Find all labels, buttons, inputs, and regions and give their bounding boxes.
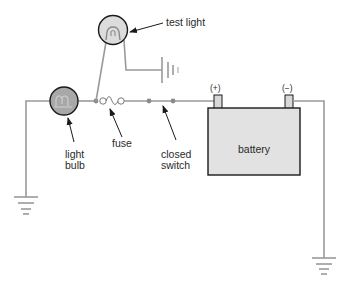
- test-light-ground-icon: [162, 57, 178, 83]
- negative-terminal-label: (−): [282, 83, 293, 93]
- fuse-label: fuse: [112, 137, 132, 149]
- test-light-label: test light: [166, 16, 205, 28]
- test-light-arrow: [130, 23, 163, 32]
- test-light-leads: [96, 40, 162, 101]
- right-ground-icon: [312, 258, 336, 274]
- light-bulb-icon: [50, 87, 78, 115]
- circuit-diagram: test light light bulb fuse closed switch…: [0, 0, 346, 288]
- closed-switch-label-line2: switch: [161, 159, 190, 171]
- light-bulb-label-line2: bulb: [65, 159, 85, 171]
- battery-label: battery: [238, 143, 271, 155]
- test-light-icon: [99, 16, 128, 45]
- fuse-icon: [100, 97, 124, 105]
- left-ground-wire: [26, 101, 51, 197]
- battery-icon: [208, 95, 300, 175]
- light-bulb-arrow: [68, 118, 74, 142]
- closed-switch-arrow: [163, 106, 176, 140]
- positive-terminal-label: (+): [210, 83, 221, 93]
- left-ground-icon: [14, 197, 38, 214]
- fuse-arrow: [110, 109, 122, 137]
